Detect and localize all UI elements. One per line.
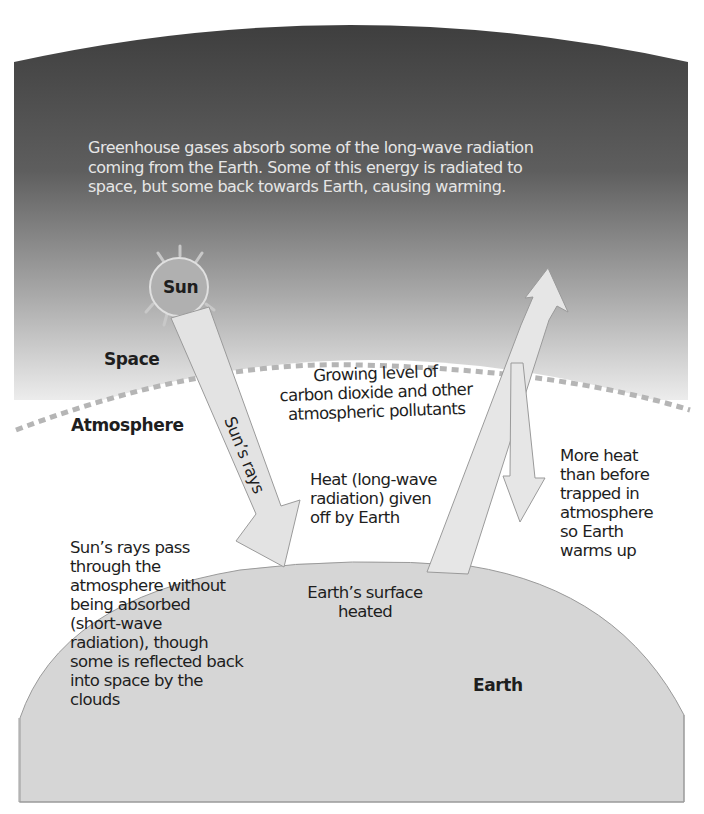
annotation-line: Heat (long-wave xyxy=(310,470,437,489)
annotation-line: being absorbed xyxy=(70,595,243,614)
heat-given-off-annotation: Heat (long-wave radiation) given off by … xyxy=(310,470,437,527)
caption-text: Greenhouse gases absorb some of the long… xyxy=(88,138,628,197)
caption-line: space, but some back towards Earth, caus… xyxy=(88,177,628,197)
annotation-line: Sun’s rays pass xyxy=(70,538,243,557)
annotation-line: off by Earth xyxy=(310,508,437,527)
annotation-line: radiation) given xyxy=(310,489,437,508)
annotation-line: than before xyxy=(560,465,653,484)
annotation-line: clouds xyxy=(70,690,243,709)
annotation-line: radiation), though xyxy=(70,633,243,652)
sun-label: Sun xyxy=(163,278,198,297)
caption-line: Greenhouse gases absorb some of the long… xyxy=(88,138,628,158)
annotation-line: More heat xyxy=(560,446,653,465)
annotation-line: atmosphere without xyxy=(70,576,243,595)
annotation-line: (short-wave xyxy=(70,614,243,633)
pollutants-annotation: Growing level of carbon dioxide and othe… xyxy=(267,360,485,425)
annotation-line: trapped in xyxy=(560,484,653,503)
annotation-line: warms up xyxy=(560,541,653,560)
surface-heated-annotation: Earth’s surface heated xyxy=(290,583,440,621)
caption-line: coming from the Earth. Some of this ener… xyxy=(88,158,628,178)
annotation-line: into space by the xyxy=(70,671,243,690)
atmosphere-label: Atmosphere xyxy=(71,416,184,435)
suns-rays-pass-annotation: Sun’s rays pass through the atmosphere w… xyxy=(70,538,243,709)
annotation-line: heated xyxy=(290,602,440,621)
space-label: Space xyxy=(104,350,160,369)
annotation-line: through the xyxy=(70,557,243,576)
annotation-line: so Earth xyxy=(560,522,653,541)
earth-label: Earth xyxy=(473,676,523,695)
annotation-line: Earth’s surface xyxy=(290,583,440,602)
annotation-line: some is reflected back xyxy=(70,652,243,671)
more-heat-annotation: More heat than before trapped in atmosph… xyxy=(560,446,653,560)
annotation-line: atmosphere xyxy=(560,503,653,522)
